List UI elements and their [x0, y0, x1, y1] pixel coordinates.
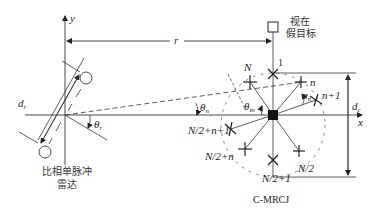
- element-label-N: N: [243, 61, 252, 73]
- jammer-center: [268, 110, 278, 120]
- element-label-1: 1: [278, 57, 283, 68]
- element-label-n: n: [310, 76, 316, 88]
- radar-label-line1: 比相单脉冲: [42, 165, 92, 177]
- element-label-n-half-plus-n-plus-1: N/2+n+1: [187, 124, 230, 136]
- line-of-sight: [65, 82, 302, 115]
- radar-antenna-bottom: [39, 146, 51, 158]
- array-element-n-plus-1: [310, 94, 322, 106]
- y-axis-label: y: [69, 12, 75, 24]
- theta-n-label: θn: [200, 101, 209, 115]
- false-target-label-line1: 视在: [290, 15, 310, 27]
- radar-antenna-top: [80, 72, 92, 84]
- radar-angle-label: θr: [94, 118, 102, 132]
- array-element-n-half: [293, 145, 305, 157]
- circular-array-jammer: dc θin αn 1 n n+1 N/: [187, 57, 362, 205]
- false-target-marker: [268, 22, 278, 32]
- radar-baseline-label: dr: [18, 97, 27, 111]
- theta-in-label: θin: [244, 100, 255, 114]
- array-element-n-half-plus-n: [238, 142, 252, 156]
- range-label: r: [174, 34, 179, 46]
- array-element-N: [243, 75, 257, 89]
- radar-antenna-pair: dr θr 比相单脉冲 雷达: [18, 58, 107, 190]
- jammer-diameter-label: dc: [352, 100, 362, 114]
- radar-label-line2: 雷达: [57, 179, 77, 190]
- element-label-n-plus-1: n+1: [322, 89, 340, 101]
- jammer-caption: C-MRCJ: [253, 194, 289, 205]
- element-label-n-half: N/2: [297, 162, 314, 174]
- array-element-n: [295, 76, 307, 88]
- element-label-n-half-plus-1: N/2+1: [261, 172, 291, 184]
- x-axis-label: x: [357, 116, 363, 128]
- element-label-n-half-plus-n: N/2+n: [204, 150, 234, 162]
- false-target-label-line2: 假目标: [286, 27, 316, 39]
- range-dimension: r: [67, 34, 271, 46]
- c-mrcj-geometry-diagram: y x r dr θr 比相单脉冲 雷达 θn 视在: [0, 0, 380, 215]
